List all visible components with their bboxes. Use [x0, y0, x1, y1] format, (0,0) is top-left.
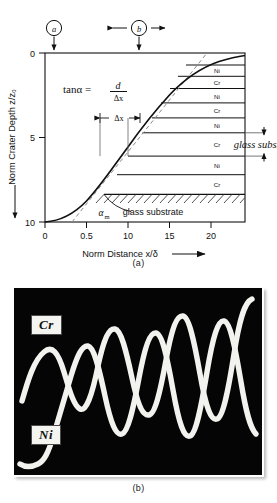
y-tick-5: 5: [30, 133, 35, 143]
x-tick-1point5: 15: [164, 231, 174, 241]
equation-denominator: Δx: [114, 94, 124, 103]
d-label: glass substrate: [234, 139, 277, 150]
delta-x-label: Δx: [114, 114, 123, 123]
y-tick-0: 0: [30, 49, 35, 59]
layer-label-2: Cr: [214, 79, 221, 86]
layer-label-7: Ni: [214, 162, 220, 169]
cr-trace-label: Cr: [31, 315, 62, 335]
layer-label-6: Cr: [214, 141, 221, 148]
ni-trace-label: Ni: [31, 425, 61, 445]
figure-root: a b 0 5 10 Norm Crater Depth: [0, 0, 277, 503]
callout-a: a: [46, 20, 61, 50]
panel-a-plot: a b 0 5 10 Norm Crater Depth: [0, 0, 277, 272]
layer-label-5: Ni: [214, 122, 220, 129]
y-axis: [39, 53, 45, 222]
layer-label-3: Ni: [214, 93, 220, 100]
panel-b-micrograph: Cr Ni: [14, 288, 262, 475]
callout-b-label: b: [137, 24, 141, 34]
panel-a-caption: (a): [0, 258, 277, 268]
y-axis-title: Norm Crater Depth z/z₀: [7, 89, 17, 185]
panel-b-caption: (b): [0, 483, 277, 493]
x-axis: [45, 222, 211, 228]
layer-label-1: Ni: [214, 67, 220, 74]
x-tick-0point5: 0.5: [80, 231, 93, 241]
layer-label-4: Cr: [214, 107, 221, 114]
glass-substrate-label: glass substrate: [123, 207, 184, 217]
layer-label-8: Cr: [214, 181, 221, 188]
x-tick-0: 0: [42, 231, 47, 241]
x-tick-2: 20: [206, 231, 216, 241]
crater-depth-plot-svg: a b 0 5 10 Norm Crater Depth: [0, 0, 277, 272]
callout-a-label: a: [52, 24, 56, 34]
x-tick-1: 10: [123, 231, 133, 241]
callout-b: b: [113, 20, 165, 50]
y-tick-10: 10: [25, 218, 35, 228]
alpha-m-subscript: m: [104, 213, 109, 220]
equation-lhs: tanα =: [63, 83, 91, 95]
